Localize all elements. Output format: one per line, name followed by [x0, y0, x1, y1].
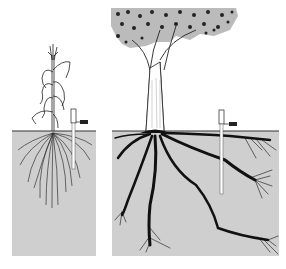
tree-panel	[111, 8, 279, 256]
corn-plant	[32, 44, 70, 131]
root-system-diagram	[0, 0, 286, 269]
corn-panel	[12, 44, 96, 256]
